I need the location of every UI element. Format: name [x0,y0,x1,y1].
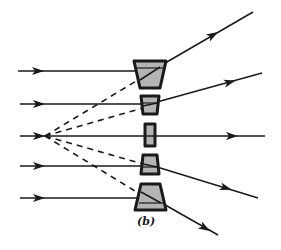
arrow-icon [198,222,212,235]
outgoing-ray-2 [157,73,262,102]
arrow-icon [223,77,237,88]
dashed-line-1 [45,80,138,136]
dashed-line-4 [45,136,143,164]
dashed-line-5 [45,136,140,194]
figure-label: (b) [137,215,155,228]
outgoing-ray-1 [160,12,253,66]
outgoing-rays [153,12,265,235]
arrow-icon [219,182,233,193]
prism-3 [145,124,155,146]
virtual-ray-extensions [45,80,143,194]
prism-1 [134,61,166,88]
dashed-line-2 [45,108,143,136]
outgoing-arrowheads [198,29,238,235]
diverging-lens-diagram [0,0,281,250]
incoming-arrowheads [32,67,45,202]
outgoing-ray-4 [157,167,258,198]
arrow-icon [206,29,220,42]
